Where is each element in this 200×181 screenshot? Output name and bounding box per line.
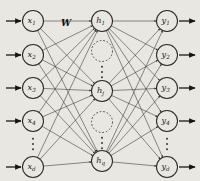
connection-edge <box>111 127 158 156</box>
node-hj: hj <box>92 81 113 102</box>
connection-edge <box>108 30 162 112</box>
input-ellipsis <box>32 143 34 145</box>
connection-edge <box>106 31 162 152</box>
connection-edge <box>111 60 158 86</box>
hidden-placeholder-upper <box>92 41 113 62</box>
node-x2: x2 <box>23 45 44 66</box>
connection-edge <box>43 162 91 166</box>
connection-edge <box>112 162 156 166</box>
ellipsis-dots <box>32 66 168 150</box>
connection-edge <box>112 88 156 90</box>
output-ellipsis <box>166 138 168 140</box>
node-x4: x4 <box>23 111 44 132</box>
input-ellipsis <box>32 138 34 140</box>
node-x1: x1 <box>23 11 44 32</box>
node-h1: h1 <box>92 11 113 32</box>
connection-edge <box>43 88 91 90</box>
network-canvas: x1x2x3x4xdh1hjhqy1y2y3y4yd W <box>0 0 200 181</box>
hidden-ellipsis-2 <box>101 147 103 149</box>
edges-hidden-to-output <box>106 21 162 166</box>
hidden-placeholder-lower <box>92 112 113 133</box>
node-yd: yd <box>157 157 178 178</box>
node-y3: y3 <box>157 78 178 99</box>
node-y4: y4 <box>157 111 178 132</box>
connection-edge <box>109 96 160 153</box>
node-x3: x3 <box>23 78 44 99</box>
node-xd: xd <box>23 157 44 178</box>
hidden-ellipsis-2 <box>101 137 103 139</box>
connection-edge <box>106 31 162 158</box>
weight-matrix-label: W <box>61 18 72 28</box>
edges-input-to-hidden <box>37 21 97 166</box>
connection-edge <box>39 64 97 152</box>
neural-network-figure: x1x2x3x4xdh1hjhqy1y2y3y4yd W <box>0 0 200 181</box>
connection-edge <box>42 60 92 86</box>
connection-edge <box>40 28 94 83</box>
connection-edge <box>42 126 93 155</box>
connection-edge <box>39 30 96 113</box>
hidden-ellipsis-2 <box>101 142 103 144</box>
node-y1: y1 <box>157 11 178 32</box>
connection-edge <box>40 96 95 154</box>
input-ellipsis <box>32 148 34 150</box>
connection-edge <box>37 30 97 157</box>
output-ellipsis <box>166 143 168 145</box>
node-y2: y2 <box>157 45 178 66</box>
output-ellipsis <box>166 148 168 150</box>
hidden-ellipsis-1 <box>101 66 103 68</box>
connection-edge <box>109 29 160 84</box>
node-hq: hq <box>92 151 113 172</box>
hidden-ellipsis-1 <box>101 76 103 78</box>
connection-edge <box>112 95 158 116</box>
hidden-ellipsis-1 <box>101 71 103 73</box>
connection-edge <box>107 64 161 152</box>
